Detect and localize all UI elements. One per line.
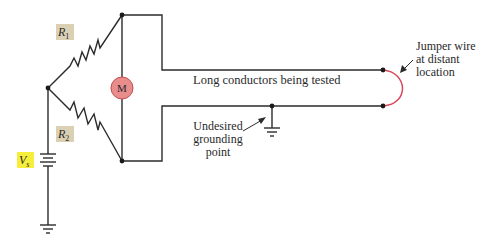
svg-text:Jumper wire: Jumper wire: [416, 39, 476, 53]
motor-meter: M: [111, 77, 133, 99]
ground-note: Undesired grounding point: [193, 117, 266, 159]
svg-text:point: point: [206, 145, 231, 159]
r2-label: R2: [56, 126, 74, 143]
jumper-wire: [383, 70, 403, 106]
jumper-note: Jumper wire at distant location: [400, 39, 476, 79]
r1-label: R1: [56, 24, 74, 41]
svg-text:at distant: at distant: [416, 52, 460, 66]
conductors-label: Long conductors being tested: [193, 73, 341, 87]
motor-label: M: [117, 82, 127, 94]
node-left: [46, 86, 51, 91]
node-ground: [270, 104, 275, 109]
vs-label: Vs: [17, 152, 34, 169]
undesired-ground: [264, 106, 280, 136]
jumper-arrow-head: [400, 65, 407, 73]
svg-text:grounding: grounding: [193, 132, 242, 146]
battery-branch: [40, 88, 56, 233]
svg-text:location: location: [416, 65, 455, 79]
svg-text:Undesired: Undesired: [193, 119, 242, 133]
circuit-diagram: M R1 R2 Vs Long conductors: [0, 0, 500, 250]
ground-arrow: [243, 120, 262, 131]
node-right-top: [381, 68, 386, 73]
node-right-bottom: [381, 104, 386, 109]
node-top: [120, 13, 125, 18]
ground-arrow-head: [258, 117, 266, 124]
node-bottom: [120, 159, 125, 164]
resistor-r2: [48, 88, 122, 161]
top-conductor: [122, 15, 383, 70]
bottom-conductor: [122, 106, 383, 161]
ground-icon: [40, 225, 56, 233]
